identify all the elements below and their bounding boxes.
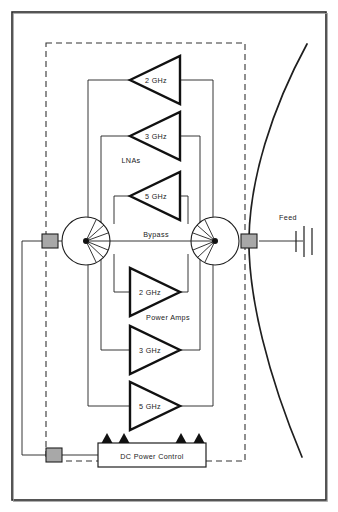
bias-arrow-1 [102,433,113,443]
lna-label-5ghz: 5 GHz [145,192,167,201]
dc-power-control-block[interactable]: DC Power Control [98,443,206,467]
feed-connector[interactable] [241,234,257,248]
lna-label-3ghz: 3 GHz [145,132,167,141]
dc-bias-arrows [102,433,205,443]
bias-arrow-2 [119,433,130,443]
pa-input-routing [88,254,130,406]
pa-output-routing [180,254,213,406]
output-switch-common-node [212,238,218,244]
pa-label-2ghz: 2 GHz [139,288,161,297]
pa-label-5ghz: 5 GHz [139,402,161,411]
lna-label-2ghz: 2 GHz [145,76,167,85]
dc-input-connector[interactable] [46,448,62,462]
block-diagram: 2 GHz 3 GHz 5 GHz LNAs 2 GHz 3 GHz [0,0,338,512]
pa-label-3ghz: 3 GHz [139,346,161,355]
power-amps-group-label: Power Amps [146,313,190,322]
bias-arrow-4 [194,433,205,443]
dc-external-rail [22,241,46,455]
figure-canvas: 2 GHz 3 GHz 5 GHz LNAs 2 GHz 3 GHz [0,0,338,512]
lna-amplifier-group: 2 GHz 3 GHz 5 GHz [130,56,180,220]
power-amp-group: 2 GHz 3 GHz 5 GHz [130,268,180,430]
input-rotary-switch[interactable] [62,217,110,265]
input-switch-common-node [83,238,89,244]
lnas-group-label: LNAs [122,156,141,165]
bypass-label: Bypass [143,230,169,239]
feed-ground-symbol [296,226,312,257]
lna-output-routing [180,80,213,228]
output-rotary-switch[interactable] [191,217,239,265]
dc-power-control-label: DC Power Control [120,452,184,461]
rf-input-connector[interactable] [42,234,58,248]
parabolic-reflector [249,44,307,457]
bias-arrow-3 [176,433,187,443]
lna-input-routing [88,80,130,228]
feed-label: Feed [279,213,297,222]
